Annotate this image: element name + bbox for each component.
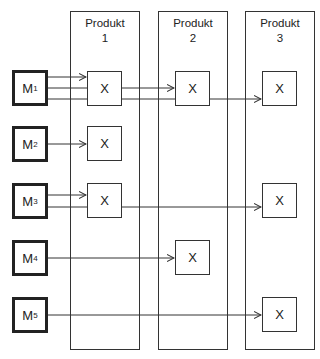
x-mark: X	[188, 250, 197, 265]
machine-box-4: M4	[12, 240, 48, 276]
machine-index: 4	[33, 254, 37, 263]
machine-label: M	[22, 137, 33, 152]
x-mark: X	[275, 81, 284, 96]
machine-label: M	[22, 81, 33, 96]
machine-box-5: M5	[12, 297, 48, 333]
machine-label: M	[22, 251, 33, 266]
machine-box-3: M3	[12, 183, 48, 219]
machine-index: 5	[33, 311, 37, 320]
x-mark: X	[188, 81, 197, 96]
cell-m3-p3: X	[262, 183, 297, 218]
cell-m3-p1: X	[87, 183, 122, 218]
machine-box-1: M1	[12, 70, 48, 106]
x-mark: X	[275, 307, 284, 322]
x-mark: X	[100, 193, 109, 208]
machine-label: M	[22, 308, 33, 323]
cell-m5-p3: X	[262, 297, 297, 332]
x-mark: X	[100, 81, 109, 96]
machine-index: 2	[33, 140, 37, 149]
cell-m1-p1: X	[87, 71, 122, 106]
machine-index: 1	[33, 84, 37, 93]
x-mark: X	[275, 193, 284, 208]
machine-label: M	[22, 194, 33, 209]
cell-m1-p3: X	[262, 71, 297, 106]
cell-m4-p2: X	[175, 240, 210, 275]
cell-m2-p1: X	[87, 126, 122, 161]
machine-index: 3	[33, 197, 37, 206]
cell-m1-p2: X	[175, 71, 210, 106]
x-mark: X	[100, 136, 109, 151]
machine-box-2: M2	[12, 126, 48, 162]
